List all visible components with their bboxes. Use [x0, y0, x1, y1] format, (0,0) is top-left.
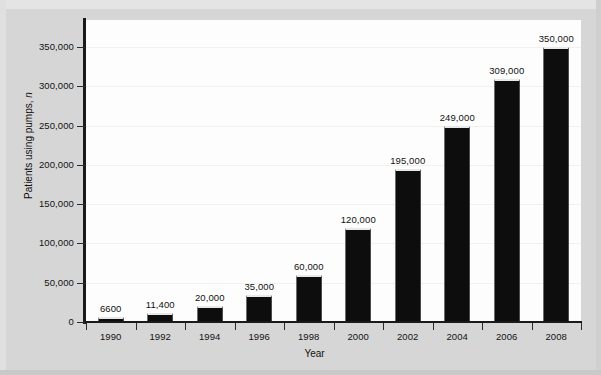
bar-value-label: 309,000: [472, 65, 542, 76]
y-axis-tick: [77, 165, 85, 166]
y-axis-tick: [77, 126, 85, 127]
y-axis-tick-label: 100,000: [0, 237, 74, 248]
bar[interactable]: [296, 275, 322, 322]
x-axis-title-text: Year: [304, 348, 324, 359]
bar[interactable]: [345, 228, 371, 322]
x-axis-tick-label: 1998: [283, 331, 335, 342]
y-axis-title-text: Patients using pumps,: [23, 98, 34, 199]
bar[interactable]: [494, 79, 520, 322]
y-axis-tick: [77, 47, 85, 48]
y-axis-tick-label: 50,000: [0, 277, 74, 288]
x-axis-tick: [383, 323, 384, 330]
y-axis-tick-label: 150,000: [0, 198, 74, 209]
x-axis-tick: [482, 323, 483, 330]
x-axis-tick: [433, 323, 434, 330]
x-axis-tick: [532, 323, 533, 330]
page-right-edge: [596, 0, 601, 375]
x-axis-tick: [86, 323, 87, 330]
x-axis-title: Year: [0, 348, 601, 359]
page-bottom-edge: [0, 370, 601, 375]
x-axis-tick: [581, 323, 582, 330]
x-axis-tick: [334, 323, 335, 330]
bar-value-label: 350,000: [521, 33, 591, 44]
y-axis-tick-label: 250,000: [0, 120, 74, 131]
y-axis-tick: [77, 86, 85, 87]
page-top-edge: [0, 0, 601, 9]
y-axis-tick: [77, 283, 85, 284]
y-axis-tick: [77, 204, 85, 205]
gridline: [86, 47, 581, 48]
bar-value-label: 120,000: [323, 214, 393, 225]
bar-value-label: 60,000: [274, 261, 344, 272]
y-axis-tick-label: 350,000: [0, 41, 74, 52]
bar[interactable]: [444, 126, 470, 322]
y-axis-tick: [77, 243, 85, 244]
x-axis-tick: [284, 323, 285, 330]
bar-value-label: 195,000: [373, 155, 443, 166]
x-axis-tick-label: 2000: [332, 331, 384, 342]
bar-value-label: 249,000: [422, 112, 492, 123]
bar-value-label: 35,000: [224, 281, 294, 292]
x-axis-tick-label: 1994: [184, 331, 236, 342]
y-axis-tick: [77, 322, 85, 323]
bar[interactable]: [197, 306, 223, 322]
bar[interactable]: [395, 169, 421, 322]
y-axis-tick-label: 200,000: [0, 159, 74, 170]
bar[interactable]: [543, 47, 569, 322]
x-axis-tick-label: 2004: [431, 331, 483, 342]
y-axis-line: [83, 18, 86, 324]
x-axis-tick-label: 1996: [233, 331, 285, 342]
y-axis-title-italic: n: [23, 92, 34, 98]
x-axis-tick-label: 1990: [85, 331, 137, 342]
x-axis-tick: [136, 323, 137, 330]
y-axis-tick-label: 300,000: [0, 80, 74, 91]
bar[interactable]: [246, 295, 272, 323]
x-axis-tick-label: 2008: [530, 331, 582, 342]
x-axis-tick: [235, 323, 236, 330]
x-axis-tick-label: 1992: [134, 331, 186, 342]
y-axis-title: Patients using pumps, n: [23, 56, 34, 236]
bar-value-label: 20,000: [175, 292, 245, 303]
x-axis-tick-label: 2006: [481, 331, 533, 342]
x-axis-tick-label: 2002: [382, 331, 434, 342]
x-axis-tick: [185, 323, 186, 330]
chart-figure: 050,000100,000150,000200,000250,000300,0…: [0, 0, 601, 375]
y-axis-tick-label: 0: [0, 316, 74, 327]
